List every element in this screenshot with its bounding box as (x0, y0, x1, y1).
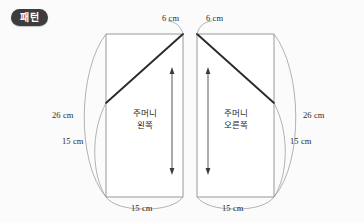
pocket-left-name: 주머니 왼쪽 (120, 107, 170, 131)
pocket-right-dim-side-long: 26 cm (303, 110, 325, 120)
pattern-badge: 패턴 (11, 9, 48, 26)
pocket-right-name-line1: 주머니 (210, 107, 262, 119)
pocket-left-dim-bottom: 15 cm (131, 203, 153, 213)
pocket-right-dim-top: 6 cm (206, 13, 223, 23)
pocket-right-leader-15cm (274, 103, 285, 197)
pocket-right-dim-side-short: 15 cm (290, 136, 312, 146)
pattern-diagram-page: 패턴 주머니 왼쪽 6 cm 26 cm 15 cm 15 cm 주머니 오른쪽… (0, 0, 364, 222)
pocket-right-leader-26cm (274, 34, 296, 197)
pocket-left-name-line1: 주머니 (120, 107, 170, 119)
pocket-left-leader-15cm (95, 103, 106, 197)
pocket-left-dim-top: 6 cm (162, 13, 179, 23)
pocket-right-dim-bottom: 15 cm (222, 203, 244, 213)
pocket-right-name: 주머니 오른쪽 (210, 107, 262, 131)
pocket-left-name-line2: 왼쪽 (120, 119, 170, 131)
pocket-left-dim-side-short: 15 cm (62, 136, 84, 146)
pocket-right-name-line2: 오른쪽 (210, 119, 262, 131)
pocket-left-leader-26cm (84, 34, 106, 197)
pocket-left-dim-side-long: 26 cm (52, 110, 74, 120)
